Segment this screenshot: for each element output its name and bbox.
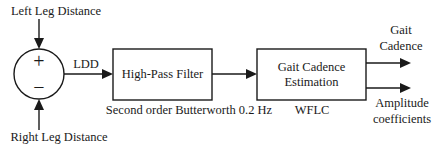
high-pass-filter-block: High-Pass Filter xyxy=(113,49,212,100)
filter-to-estimation-arrow xyxy=(212,69,257,79)
wflc-caption: WFLC xyxy=(295,103,330,117)
gait-cadence-estimation-block: Gait Cadence Estimation xyxy=(257,49,366,100)
left-leg-input-arrow xyxy=(34,19,44,49)
block-diagram: Left Leg Distance + − Right Leg Distance… xyxy=(0,0,442,155)
gait-cadence-estimation-label-line-1: Gait Cadence xyxy=(278,60,346,74)
right-leg-input-arrow xyxy=(34,99,44,130)
minus-sign: − xyxy=(33,76,44,98)
amplitude-coefficients-output-label-line-2: coefficients xyxy=(373,112,431,126)
left-leg-distance-label: Left Leg Distance xyxy=(11,4,102,18)
gait-cadence-output-label-line-1: Gait xyxy=(390,23,412,37)
gait-cadence-estimation-label-line-2: Estimation xyxy=(284,75,339,89)
summing-junction: + − xyxy=(14,49,64,99)
gait-cadence-output-label-line-2: Cadence xyxy=(379,39,422,53)
amplitude-coefficients-output-label-line-1: Amplitude xyxy=(375,96,429,110)
right-leg-distance-label: Right Leg Distance xyxy=(10,130,108,144)
ldd-label: LDD xyxy=(73,57,99,71)
high-pass-filter-caption: Second order Butterworth 0.2 Hz xyxy=(106,103,273,117)
amplitude-coefficients-output-arrow xyxy=(366,83,411,93)
gait-cadence-output-arrow xyxy=(366,58,411,68)
high-pass-filter-label: High-Pass Filter xyxy=(122,67,204,81)
plus-sign: + xyxy=(33,50,44,72)
